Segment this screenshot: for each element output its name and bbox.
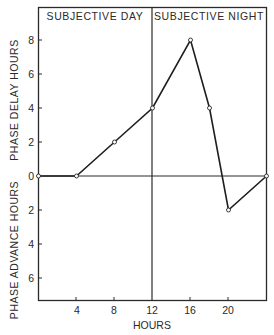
- data-point: [151, 106, 155, 110]
- data-point: [37, 174, 41, 178]
- y-axis-label-advance: PHASE ADVANCE HOURS: [8, 181, 20, 319]
- phase-response-chart: SUBJECTIVE DAY SUBJECTIVE NIGHT 8 6 4 2 …: [0, 0, 274, 335]
- subjective-day-label: SUBJECTIVE DAY: [47, 10, 144, 22]
- data-point: [227, 208, 231, 212]
- x-axis-label: HOURS: [133, 319, 171, 331]
- x-tick-8: 8: [111, 304, 117, 316]
- data-point: [113, 140, 117, 144]
- data-point: [208, 106, 212, 110]
- y-tick-adv-6: 6: [28, 272, 34, 284]
- y-tick-labels: 8 6 4 2 0 2 4 6: [28, 34, 34, 284]
- y-tick-8: 8: [28, 34, 34, 46]
- x-tick-labels: 4 8 12 16 20: [74, 304, 234, 316]
- x-tick-12: 12: [146, 304, 158, 316]
- x-tick-16: 16: [184, 304, 196, 316]
- y-tick-6: 6: [28, 68, 34, 80]
- data-point: [265, 174, 269, 178]
- data-point: [75, 174, 79, 178]
- subjective-night-label: SUBJECTIVE NIGHT: [154, 10, 264, 22]
- data-point: [189, 38, 193, 42]
- y-tick-0: 0: [28, 170, 34, 182]
- x-tick-4: 4: [74, 304, 80, 316]
- y-axis-label-delay: PHASE DELAY HOURS: [8, 39, 20, 160]
- y-tick-2: 2: [28, 136, 34, 148]
- y-tick-adv-4: 4: [28, 238, 34, 250]
- x-tick-20: 20: [222, 304, 234, 316]
- y-tick-adv-2: 2: [28, 204, 34, 216]
- y-tick-4: 4: [28, 102, 34, 114]
